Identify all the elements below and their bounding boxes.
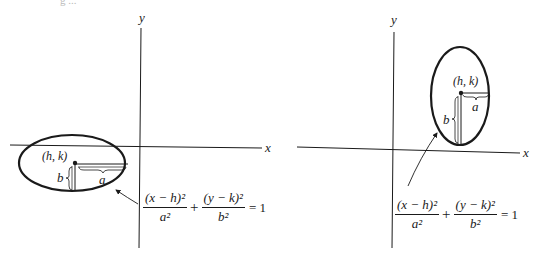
y-axis-label: y — [137, 10, 145, 25]
fraction-x-term: (x − h)² a² — [143, 190, 187, 225]
numerator: (x − h)² — [395, 197, 439, 215]
center-label: (h, k) — [453, 74, 478, 88]
semi-axis-b-label: b — [57, 170, 64, 185]
y-axis — [392, 32, 394, 248]
denominator: a² — [160, 208, 170, 225]
denominator: b² — [470, 215, 480, 232]
denominator: a² — [412, 215, 422, 232]
equation-pointer-arrow — [116, 190, 138, 204]
fraction-y-term: (y − k)² b² — [454, 197, 497, 232]
x-axis — [297, 147, 520, 153]
y-axis — [139, 28, 141, 248]
ellipse-equation-vertical: (x − h)² a² + (y − k)² b² = 1 — [395, 197, 518, 232]
x-axis-label: x — [522, 145, 529, 160]
center-label: (h, k) — [42, 149, 67, 163]
semi-axis-b-label: b — [443, 112, 450, 127]
numerator: (x − h)² — [143, 190, 187, 208]
x-axis-label: x — [264, 140, 271, 155]
plus-sign: + — [442, 206, 450, 223]
equals-one: = 1 — [249, 200, 266, 216]
brace-b-icon — [452, 97, 458, 143]
equation-pointer-arrow — [408, 133, 437, 186]
plus-sign: + — [190, 199, 198, 216]
semi-axis-a-label: a — [472, 99, 479, 114]
y-axis-label: y — [389, 12, 397, 27]
ellipse — [431, 47, 489, 145]
equals-one: = 1 — [501, 207, 518, 223]
fraction-x-term: (x − h)² a² — [395, 197, 439, 232]
numerator: (y − k)² — [202, 190, 245, 208]
brace-b-icon — [66, 167, 72, 190]
ellipse-equation-horizontal: (x − h)² a² + (y − k)² b² = 1 — [143, 190, 266, 225]
fraction-y-term: (y − k)² b² — [202, 190, 245, 225]
x-axis — [10, 145, 262, 148]
semi-axis-a-label: a — [99, 172, 106, 187]
numerator: (y − k)² — [454, 197, 497, 215]
denominator: b² — [218, 208, 228, 225]
